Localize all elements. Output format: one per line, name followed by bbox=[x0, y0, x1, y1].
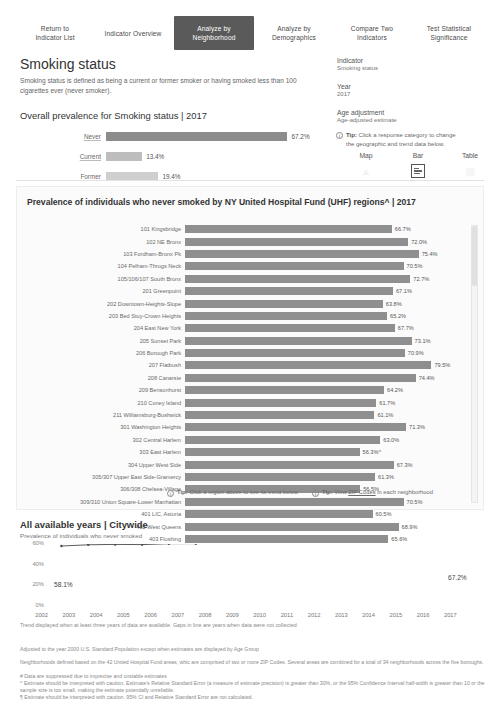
uhf-row[interactable]: 201 Greenpoint67.1% bbox=[17, 285, 485, 297]
uhf-row[interactable]: 203 Bed Stuy-Crown Heights65.2% bbox=[17, 310, 485, 322]
uhf-bar[interactable] bbox=[185, 510, 373, 518]
uhf-region-label[interactable]: 201 Greenpoint bbox=[17, 288, 185, 294]
uhf-row[interactable]: 304 Upper West Side67.3% bbox=[17, 458, 485, 470]
uhf-region-label[interactable]: 202 Downtown-Heights-Slope bbox=[17, 301, 185, 307]
overall-row[interactable]: Former19.4% bbox=[20, 166, 320, 186]
overall-row[interactable]: Current13.4% bbox=[20, 146, 320, 166]
uhf-bar[interactable] bbox=[185, 238, 408, 246]
uhf-bar[interactable] bbox=[185, 349, 405, 357]
uhf-bar[interactable] bbox=[185, 436, 380, 444]
uhf-region-label[interactable]: 401 LIC, Astoria bbox=[17, 511, 185, 517]
overall-bar[interactable] bbox=[106, 132, 287, 141]
uhf-bar[interactable] bbox=[185, 287, 393, 295]
uhf-region-label[interactable]: 103 Fordham-Bronx Pk bbox=[17, 251, 185, 257]
trend-data-point[interactable] bbox=[195, 544, 198, 545]
uhf-row[interactable]: 207 Flatbush79.5% bbox=[17, 359, 485, 371]
tab-analyze-by-demographics[interactable]: Analyze by Demographics bbox=[254, 16, 334, 50]
overall-row[interactable]: Never67.2% bbox=[20, 126, 320, 146]
uhf-bar[interactable] bbox=[185, 250, 419, 258]
uhf-row[interactable]: 301 Washington Heights71.3% bbox=[17, 421, 485, 433]
zip-codes-link[interactable]: ZIP Codes bbox=[348, 489, 375, 495]
view-tab-bar-label[interactable]: Bar bbox=[394, 152, 442, 159]
uhf-bar[interactable] bbox=[185, 523, 399, 531]
uhf-region-label[interactable]: 304 Upper West Side bbox=[17, 462, 185, 468]
uhf-row[interactable]: 204 East New York67.7% bbox=[17, 322, 485, 334]
overall-category-label[interactable]: Current bbox=[20, 153, 106, 160]
uhf-region-label[interactable]: 105/106/107 South Bronx bbox=[17, 276, 185, 282]
uhf-region-label[interactable]: 102 NE Bronx bbox=[17, 239, 185, 245]
uhf-region-label[interactable]: 104 Pelham-Throgs Neck bbox=[17, 263, 185, 269]
tab-return-to-indicator-list[interactable]: Return to Indicator List bbox=[18, 16, 92, 50]
uhf-bar[interactable] bbox=[185, 386, 384, 394]
uhf-row[interactable]: 302 Central Harlem63.0% bbox=[17, 434, 485, 446]
view-table-button[interactable]: ▦ bbox=[446, 162, 494, 180]
uhf-bar[interactable] bbox=[185, 225, 392, 233]
uhf-row[interactable]: 305/307 Upper East Side-Gramercy61.3% bbox=[17, 471, 485, 483]
uhf-bar[interactable] bbox=[185, 262, 404, 270]
uhf-region-label[interactable]: 211 Williamsburg-Bushwick bbox=[17, 412, 185, 418]
uhf-bar[interactable] bbox=[185, 337, 412, 345]
uhf-bar[interactable] bbox=[185, 374, 416, 382]
uhf-region-label[interactable]: 203 Bed Stuy-Crown Heights bbox=[17, 313, 185, 319]
view-map-button[interactable]: ▲ bbox=[342, 162, 390, 180]
uhf-bar[interactable] bbox=[185, 300, 383, 308]
trend-data-point[interactable] bbox=[60, 545, 63, 548]
uhf-bar[interactable] bbox=[185, 423, 406, 431]
tab-analyze-by-neighborhood[interactable]: Analyze by Neighborhood bbox=[174, 16, 254, 50]
uhf-row[interactable]: 205 Sunset Park73.1% bbox=[17, 335, 485, 347]
uhf-scrollbar-thumb[interactable] bbox=[472, 226, 477, 286]
uhf-region-label[interactable]: 303 East Harlem bbox=[17, 449, 185, 455]
uhf-region-label[interactable]: 301 Washington Heights bbox=[17, 424, 185, 430]
uhf-row[interactable]: 209 Bensonhurst64.2% bbox=[17, 384, 485, 396]
uhf-region-label[interactable]: 209 Bensonhurst bbox=[17, 387, 185, 393]
uhf-bar[interactable] bbox=[185, 461, 394, 469]
uhf-region-label[interactable]: 101 Kingsbridge bbox=[17, 226, 185, 232]
uhf-bar[interactable] bbox=[185, 411, 374, 419]
uhf-row[interactable]: 202 Downtown-Heights-Slope63.8% bbox=[17, 297, 485, 309]
uhf-row[interactable]: 211 Williamsburg-Bushwick61.1% bbox=[17, 409, 485, 421]
uhf-row[interactable]: 208 Canarsie74.4% bbox=[17, 372, 485, 384]
overall-category-label[interactable]: Former bbox=[20, 173, 106, 180]
uhf-region-label[interactable]: 208 Canarsie bbox=[17, 375, 185, 381]
uhf-region-label[interactable]: 302 Central Harlem bbox=[17, 437, 185, 443]
trend-data-point[interactable] bbox=[87, 544, 90, 546]
uhf-region-label[interactable]: 205 Sunset Park bbox=[17, 338, 185, 344]
view-bar-button[interactable] bbox=[394, 162, 442, 180]
uhf-row[interactable]: 103 Fordham-Bronx Pk75.4% bbox=[17, 248, 485, 260]
uhf-bar[interactable] bbox=[185, 498, 404, 506]
tab-test-statistical-significance[interactable]: Test Statistical Significance bbox=[410, 16, 488, 50]
overall-bar[interactable] bbox=[106, 152, 142, 161]
uhf-bar[interactable] bbox=[185, 312, 387, 320]
uhf-row[interactable]: 104 Pelham-Throgs Neck70.5% bbox=[17, 260, 485, 272]
uhf-region-label[interactable]: 204 East New York bbox=[17, 325, 185, 331]
uhf-row[interactable]: 105/106/107 South Bronx72.7% bbox=[17, 273, 485, 285]
trend-data-point[interactable] bbox=[168, 544, 171, 545]
uhf-row[interactable]: 101 Kingsbridge66.7% bbox=[17, 223, 485, 235]
uhf-region-label[interactable]: 210 Coney Island bbox=[17, 400, 185, 406]
view-tab-map-label[interactable]: Map bbox=[342, 152, 390, 159]
trend-data-point[interactable] bbox=[114, 544, 117, 546]
uhf-bar[interactable] bbox=[185, 473, 375, 481]
uhf-value-label: 61.1% bbox=[377, 412, 393, 418]
uhf-bar[interactable] bbox=[185, 535, 388, 543]
uhf-bar[interactable] bbox=[185, 324, 395, 332]
tab-indicator-overview[interactable]: Indicator Overview bbox=[92, 16, 174, 50]
uhf-bar[interactable] bbox=[185, 361, 431, 369]
uhf-row[interactable]: 303 East Harlem56.3%^ bbox=[17, 446, 485, 458]
view-tab-table-label[interactable]: Table bbox=[446, 152, 494, 159]
uhf-row[interactable]: 210 Coney Island61.7% bbox=[17, 396, 485, 408]
trend-data-point[interactable] bbox=[141, 544, 144, 546]
uhf-region-label[interactable]: 306/308 Chelsea-Village bbox=[17, 486, 185, 492]
uhf-bar[interactable] bbox=[185, 275, 410, 283]
uhf-bar[interactable] bbox=[185, 399, 376, 407]
uhf-bar[interactable] bbox=[185, 448, 360, 456]
uhf-row[interactable]: 102 NE Bronx72.0% bbox=[17, 235, 485, 247]
uhf-row[interactable]: 309/310 Union Square-Lower Manhattan70.5… bbox=[17, 496, 485, 508]
overall-category-label[interactable]: Never bbox=[20, 133, 106, 140]
uhf-row[interactable]: 206 Borough Park70.9% bbox=[17, 347, 485, 359]
uhf-region-label[interactable]: 309/310 Union Square-Lower Manhattan bbox=[17, 499, 185, 505]
uhf-region-label[interactable]: 206 Borough Park bbox=[17, 350, 185, 356]
uhf-region-label[interactable]: 207 Flatbush bbox=[17, 362, 185, 368]
tab-compare-two-indicators[interactable]: Compare Two Indicators bbox=[334, 16, 410, 50]
uhf-region-label[interactable]: 305/307 Upper East Side-Gramercy bbox=[17, 474, 185, 480]
